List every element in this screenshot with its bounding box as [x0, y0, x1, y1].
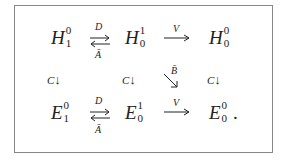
node-e-0-0: E00.	[209, 103, 221, 122]
harpoon-pair-arrow-bottom	[89, 108, 111, 122]
arrow-c-right: C↓	[207, 73, 221, 86]
node-h-0-0: H00	[209, 28, 223, 47]
label-abar-bottom: Ā	[95, 125, 101, 135]
label-d-top: D	[95, 22, 102, 32]
arrow-c-left: C↓	[47, 73, 61, 86]
node-e-1-0: E01	[51, 103, 63, 122]
harpoon-pair-arrow-top	[89, 34, 111, 48]
arrow-v-bottom	[163, 107, 191, 117]
arrow-v-top	[163, 33, 191, 43]
node-h-1-0: H01	[51, 28, 65, 47]
arrow-c-middle: C↓	[122, 73, 136, 86]
arrow-bbar-diagonal	[162, 72, 180, 90]
node-h-0-1: H10	[125, 28, 139, 47]
label-abar-top: Ā	[95, 50, 101, 60]
label-d-bottom: D	[95, 96, 102, 106]
node-e-0-1: E10	[125, 103, 137, 122]
